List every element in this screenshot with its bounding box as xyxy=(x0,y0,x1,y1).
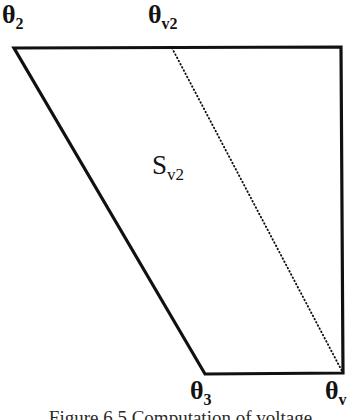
figure-container: θ2 θv2 Sv2 θ3 θv Figure 6.5 Computation … xyxy=(0,0,361,420)
label-area-symbol: S xyxy=(152,150,167,180)
label-theta-3-subscript: 3 xyxy=(204,391,212,408)
figure-drawing xyxy=(0,0,361,420)
label-theta-v2-subscript: v2 xyxy=(162,15,178,32)
label-theta-3-symbol: θ xyxy=(190,376,204,405)
label-theta-v-symbol: θ xyxy=(325,376,339,405)
label-theta-v2: θv2 xyxy=(148,2,178,28)
label-theta-2-symbol: θ xyxy=(2,0,16,29)
voltage-divider-dotted-line xyxy=(172,48,343,373)
label-theta-v: θv xyxy=(325,378,347,404)
label-area-subscript: v2 xyxy=(167,165,184,184)
label-area-sv2: Sv2 xyxy=(152,152,184,179)
figure-caption: Figure 6.5 Computation of voltage xyxy=(0,407,361,420)
label-theta-2: θ2 xyxy=(2,2,24,28)
label-theta-2-subscript: 2 xyxy=(16,15,24,32)
region-boundary-polygon xyxy=(14,47,343,374)
label-theta-v2-symbol: θ xyxy=(148,0,162,29)
label-theta-v-subscript: v xyxy=(339,391,347,408)
label-theta-3: θ3 xyxy=(190,378,212,404)
